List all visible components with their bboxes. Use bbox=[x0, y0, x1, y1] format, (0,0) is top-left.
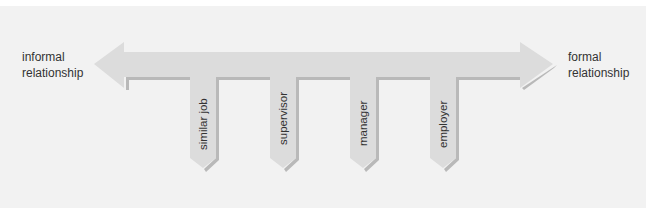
right-label-line2: relationship bbox=[568, 65, 629, 81]
double-arrow-shape bbox=[94, 42, 553, 168]
drop-label-employer: employer bbox=[436, 101, 450, 148]
drop-label-similar-job: similar job bbox=[196, 98, 210, 150]
relationship-spectrum-arrow bbox=[0, 0, 646, 208]
drop-label-manager: manager bbox=[356, 101, 370, 146]
right-label-line1: formal bbox=[568, 49, 629, 65]
informal-relationship-label: informal relationship bbox=[22, 49, 83, 81]
drop-label-supervisor: supervisor bbox=[276, 92, 290, 145]
left-label-line2: relationship bbox=[22, 65, 83, 81]
formal-relationship-label: formal relationship bbox=[568, 49, 629, 81]
left-label-line1: informal bbox=[22, 49, 83, 65]
